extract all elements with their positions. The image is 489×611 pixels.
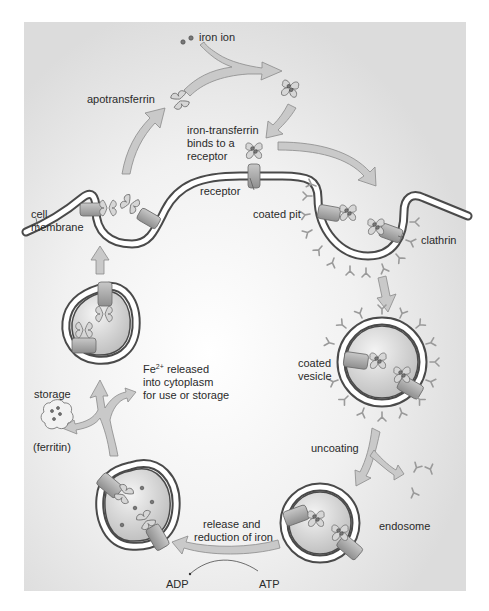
label-cell-membrane-1: cell — [31, 208, 48, 220]
label-receptor: receptor — [200, 185, 241, 197]
label-iron-transferrin-2: binds to a — [187, 137, 236, 149]
label-coated-vesicle-2: vesicle — [298, 370, 332, 382]
label-iron-transferrin-1: iron-transferrin — [187, 124, 259, 136]
label-coated-vesicle-1: coated — [298, 357, 331, 369]
label-storage: storage — [34, 388, 71, 400]
label-atp: ATP — [259, 578, 280, 590]
label-release-1: release and — [203, 518, 261, 530]
label-ferritin: (ferritin) — [33, 441, 71, 453]
label-iron-transferrin-3: receptor — [187, 150, 228, 162]
label-clathrin: clathrin — [421, 234, 456, 246]
receptor-top — [246, 143, 262, 188]
label-adp: ADP — [166, 578, 189, 590]
label-endosome: endosome — [379, 520, 430, 532]
label-fe-released-3: for use or storage — [143, 389, 229, 401]
label-iron-ion: iron ion — [199, 31, 235, 43]
iron-release-vesicle — [96, 464, 176, 552]
label-apotransferrin: apotransferrin — [87, 93, 155, 105]
endosome — [282, 487, 363, 561]
label-fe-released-2: into cytoplasm — [143, 376, 213, 388]
label-release-2: reduction of iron — [194, 531, 273, 543]
iron-uptake-diagram: iron ion apotransferrin iron-transferrin… — [0, 0, 489, 611]
label-uncoating: uncoating — [311, 442, 359, 454]
label-cell-membrane-2: membrane — [31, 221, 84, 233]
label-fe-released-1: Fe2+ released — [143, 363, 209, 375]
label-coated-pit: coated pit — [253, 208, 301, 220]
